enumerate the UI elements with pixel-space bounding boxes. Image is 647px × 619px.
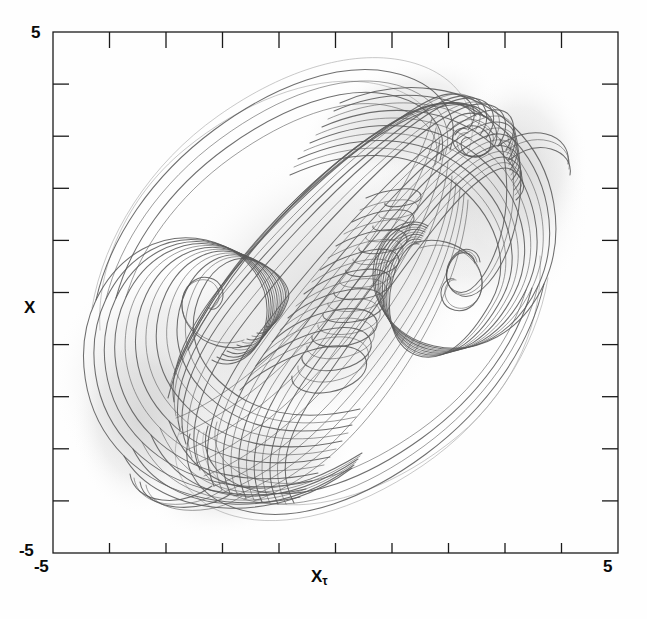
phase-portrait-figure: 5 -5 -5 5 X Xτ (0, 0, 647, 619)
x-axis-min-label: -5 (34, 558, 48, 575)
y-axis-min-label: -5 (19, 542, 33, 559)
y-axis-max-label: 5 (31, 24, 40, 41)
x-axis-title-subscript: τ (322, 574, 327, 588)
plot-svg (0, 0, 647, 619)
y-axis-title: X (24, 299, 35, 316)
x-axis-max-label: 5 (603, 558, 612, 575)
x-axis-title: Xτ (311, 568, 328, 587)
x-axis-title-base: X (311, 567, 322, 586)
